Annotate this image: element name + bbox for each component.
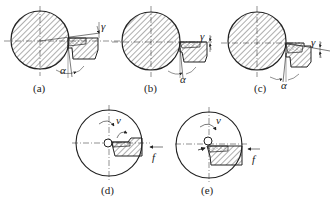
clearance-angle-symbol: α	[60, 64, 66, 76]
panel-label-b: (b)	[144, 82, 157, 95]
feed-symbol: f	[152, 151, 157, 163]
panel-label-c: (c)	[254, 82, 267, 95]
cutting-geometry-diagram: α γ (a) α γ (b)	[0, 0, 332, 211]
cutter-tip-e	[204, 137, 212, 145]
velocity-symbol: v	[216, 114, 221, 126]
cutter-tip-d	[104, 139, 112, 147]
panel-label-e: (e)	[201, 184, 214, 197]
cutting-tool-a	[68, 38, 98, 59]
cutting-tool-d	[112, 138, 142, 156]
panel-e: v f (e)	[175, 107, 260, 197]
clearance-angle-symbol: α	[180, 73, 186, 85]
panel-label-a: (a)	[33, 82, 46, 95]
cutting-tool-b	[180, 42, 207, 62]
rake-angle-symbol: γ	[200, 30, 205, 42]
panel-b: α γ (b)	[112, 6, 212, 95]
rake-angle-symbol: γ	[311, 36, 316, 48]
cutting-tool-c	[286, 43, 311, 67]
rake-angle-symbol: γ	[101, 20, 106, 32]
clearance-angle-symbol: α	[281, 79, 287, 91]
velocity-symbol: v	[116, 114, 121, 126]
cutting-tool-e	[207, 146, 242, 165]
feed-symbol: f	[252, 153, 257, 165]
panel-a: α γ (a)	[4, 6, 120, 95]
panel-c: α γ (c)	[221, 6, 330, 95]
panel-label-d: (d)	[101, 184, 114, 197]
panel-d: v f (d)	[72, 105, 163, 197]
